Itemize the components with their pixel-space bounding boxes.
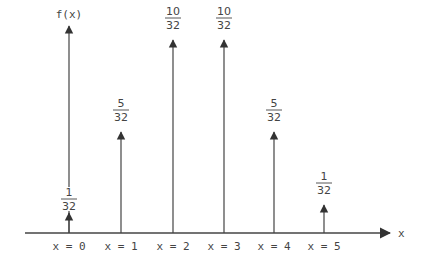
x-tick-label: x = 3: [207, 240, 240, 253]
x-tick-label: x = 4: [257, 240, 290, 253]
stem-x2: 1032: [165, 5, 181, 233]
stem-x3: 1032: [216, 5, 232, 233]
value-denominator: 32: [217, 19, 231, 32]
y-axis-label: f(x): [56, 8, 83, 21]
pmf-stem-chart: x f(x) 13253210321032532132 x = 0x = 1x …: [0, 0, 422, 266]
value-denominator: 32: [166, 19, 180, 32]
value-numerator: 10: [217, 5, 231, 18]
stem-x5: 132: [316, 170, 332, 233]
value-numerator: 1: [321, 170, 328, 183]
value-denominator: 32: [267, 111, 281, 124]
value-numerator: 10: [166, 5, 180, 18]
value-denominator: 32: [62, 200, 76, 213]
stem-x0: 132: [59, 186, 79, 233]
value-denominator: 32: [114, 111, 128, 124]
value-numerator: 1: [66, 186, 73, 199]
x-tick-label: x = 2: [156, 240, 189, 253]
x-tick-label: x = 1: [104, 240, 137, 253]
value-numerator: 5: [271, 97, 278, 110]
x-tick-label: x = 0: [52, 240, 85, 253]
x-axis-label: x: [398, 227, 405, 240]
value-numerator: 5: [118, 97, 125, 110]
stem-x1: 532: [113, 97, 129, 233]
value-denominator: 32: [317, 184, 331, 197]
stem-x4: 532: [266, 97, 282, 233]
x-tick-label: x = 5: [307, 240, 340, 253]
